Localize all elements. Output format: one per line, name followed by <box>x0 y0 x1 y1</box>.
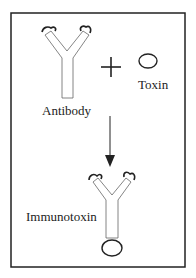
toxin-icon <box>139 54 157 68</box>
conjugated-toxin-icon <box>102 240 122 256</box>
immunotoxin-diagram <box>0 0 196 278</box>
immunotoxin-icon <box>89 172 135 238</box>
antibody-icon <box>42 26 91 98</box>
antibody-label: Antibody <box>42 103 91 119</box>
immunotoxin-label: Immunotoxin <box>26 209 97 225</box>
toxin-label: Toxin <box>138 77 168 93</box>
plus-icon <box>101 57 121 77</box>
arrow-down-icon <box>105 116 115 167</box>
diagram-frame <box>11 13 185 267</box>
